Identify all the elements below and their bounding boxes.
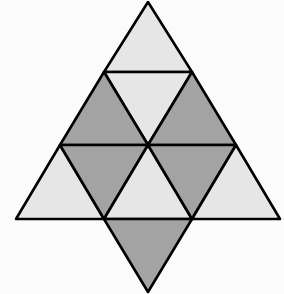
triangle-figure (0, 0, 284, 294)
triangle-cells (16, 2, 280, 292)
triangle-bottom-inverted (104, 219, 192, 292)
triangle-top (104, 2, 192, 72)
